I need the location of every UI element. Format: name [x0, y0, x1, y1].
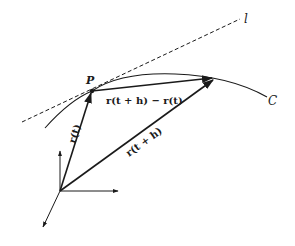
axis-x	[43, 191, 60, 227]
vector-diagram: P l C r(t + h) − r(t) r(t) r(t + h)	[0, 0, 295, 246]
label-r-t: r(t)	[66, 123, 82, 145]
label-l: l	[244, 12, 248, 26]
point-p-dot	[90, 89, 94, 93]
tangent-line	[22, 19, 240, 122]
label-p: P	[85, 74, 95, 87]
label-c: C	[268, 94, 277, 108]
label-difference: r(t + h) − r(t)	[106, 95, 183, 106]
